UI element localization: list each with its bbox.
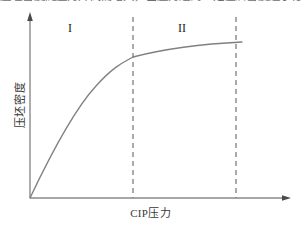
- y-axis-arrowhead: [27, 12, 33, 21]
- x-axis-label-text: CIP压力: [130, 207, 171, 219]
- x-axis-arrowhead: [282, 195, 291, 201]
- region-label-one: I: [58, 22, 82, 34]
- density-curve: [30, 42, 242, 198]
- x-axis-label: CIP压力: [0, 204, 301, 220]
- region-label-two: II: [170, 22, 194, 34]
- figure-container: 压坯密度随压力升高而增大，当压力达到一定值后密度趋于稳定 I II 压坯密度 C…: [0, 0, 301, 228]
- y-axis-label-text: 压坯密度: [11, 82, 27, 128]
- plot-area: [0, 0, 301, 228]
- y-axis-label: 压坯密度: [11, 66, 27, 144]
